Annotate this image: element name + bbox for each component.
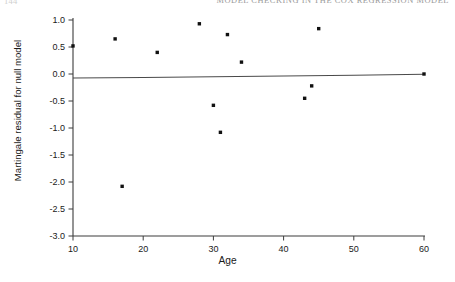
fit-line	[73, 74, 424, 78]
data-point	[198, 22, 201, 25]
x-tick-label: 40	[279, 244, 289, 254]
x-tick-label: 60	[419, 244, 429, 254]
scatter-figure: 102030405060 1.00.50.0-0.5-1.0-1.5-2.0-2…	[0, 0, 455, 282]
axes-group	[73, 18, 425, 236]
data-point	[317, 27, 320, 30]
chart-svg: 102030405060 1.00.50.0-0.5-1.0-1.5-2.0-2…	[0, 0, 455, 282]
page-canvas: 144 MODEL CHECKING IN THE COX REGRESSION…	[0, 0, 455, 282]
data-point	[303, 97, 306, 100]
y-tick-label: -2.0	[49, 177, 65, 187]
x-tick-label: 50	[349, 244, 359, 254]
x-tick-label: 20	[138, 244, 148, 254]
y-tick-label: 0.0	[52, 69, 65, 79]
y-tick-label: -1.0	[49, 123, 65, 133]
data-point	[422, 72, 425, 75]
data-point	[219, 131, 222, 134]
y-tick-label: 1.0	[52, 15, 65, 25]
data-point	[212, 104, 215, 107]
y-axis-label: Martingale residual for null model	[12, 11, 23, 211]
data-point	[71, 44, 74, 47]
x-tick-label: 30	[208, 244, 218, 254]
x-axis-label: Age	[0, 255, 455, 266]
y-tick-label: -1.5	[49, 150, 65, 160]
y-tick-group: 1.00.50.0-0.5-1.0-1.5-2.0-2.5-3.0	[49, 15, 73, 241]
x-tick-label: 10	[68, 244, 78, 254]
data-point	[113, 37, 116, 40]
data-point	[240, 60, 243, 63]
data-point	[120, 185, 123, 188]
x-tick-group: 102030405060	[68, 236, 429, 254]
y-tick-label: 0.5	[52, 42, 65, 52]
y-tick-label: -2.5	[49, 204, 65, 214]
data-point	[156, 51, 159, 54]
y-tick-label: -0.5	[49, 96, 65, 106]
data-point	[310, 84, 313, 87]
data-point-group	[71, 22, 425, 188]
data-point	[226, 33, 229, 36]
y-tick-label: -3.0	[49, 231, 65, 241]
fit-line-group	[73, 74, 424, 78]
